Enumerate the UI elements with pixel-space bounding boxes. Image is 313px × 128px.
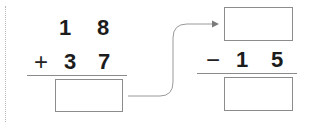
subtrahend-ones: 5 (267, 49, 287, 71)
difference-answer-box[interactable] (224, 77, 293, 111)
minuend-box[interactable] (224, 7, 293, 41)
subtrahend-tens: 1 (232, 49, 252, 71)
difference-line (197, 73, 297, 74)
minus-operator: − (202, 49, 224, 71)
